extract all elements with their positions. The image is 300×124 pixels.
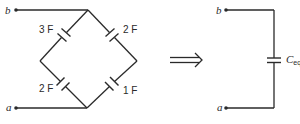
capacitor-2f-lower: 2 F xyxy=(39,61,87,108)
capacitor-2f-upper: 2 F xyxy=(88,10,137,61)
terminal-b-label: b xyxy=(5,4,11,16)
left-circuit: b a 3 F 2 F 2 F xyxy=(5,4,137,113)
capacitor-1f-label: 1 F xyxy=(123,85,137,96)
terminal-a-label-right: a xyxy=(217,101,223,113)
capacitor-1f: 1 F xyxy=(87,61,137,108)
capacitor-3f-label: 3 F xyxy=(39,24,53,35)
capacitor-ceq xyxy=(267,58,281,63)
terminal-a-dot-right xyxy=(224,106,228,110)
right-circuit: b Ceq a xyxy=(216,4,300,113)
capacitor-2f-lower-label: 2 F xyxy=(39,83,53,94)
circuit-diagram: b a 3 F 2 F 2 F xyxy=(0,0,300,124)
implies-arrow-icon xyxy=(170,53,202,67)
capacitor-3f: 3 F xyxy=(39,10,88,61)
capacitor-2f-upper-label: 2 F xyxy=(123,24,137,35)
terminal-a-label: a xyxy=(6,101,12,113)
terminal-b-label-right: b xyxy=(216,4,222,16)
capacitor-ceq-label: Ceq xyxy=(286,53,300,67)
